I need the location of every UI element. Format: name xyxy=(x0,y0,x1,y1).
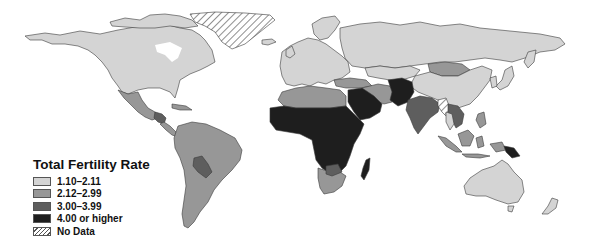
region-india xyxy=(406,96,440,134)
map-legend: Total Fertility Rate 1.10–2.11 2.12–2.99… xyxy=(33,157,150,238)
region-north-africa xyxy=(278,86,346,108)
region-europe xyxy=(280,38,350,86)
region-turkey xyxy=(334,78,372,88)
region-central-asia xyxy=(365,66,420,80)
region-korea xyxy=(490,76,497,88)
region-new-zealand xyxy=(542,198,558,214)
legend-item: 3.00–3.99 xyxy=(33,200,150,213)
legend-label: 3.00–3.99 xyxy=(57,201,102,212)
region-new-guinea-west xyxy=(490,142,506,152)
region-tasmania xyxy=(508,206,514,212)
region-scandinavia xyxy=(312,16,340,40)
region-north-america xyxy=(25,24,215,98)
legend-label: 1.10–2.11 xyxy=(57,176,101,187)
legend-label: 4.00 or higher xyxy=(57,213,123,224)
region-papua-new-guinea xyxy=(504,146,520,158)
region-philippines xyxy=(476,112,486,128)
legend-swatch-darkest xyxy=(33,214,51,223)
legend-item: 1.10–2.11 xyxy=(33,175,150,188)
region-arctic-islands xyxy=(110,14,198,28)
legend-swatch-dark xyxy=(33,202,51,211)
region-borneo xyxy=(458,130,474,146)
region-japan xyxy=(496,66,514,90)
region-sulawesi xyxy=(476,136,484,148)
legend-swatch-light xyxy=(33,177,51,186)
legend-title: Total Fertility Rate xyxy=(33,157,150,172)
region-caribbean xyxy=(172,104,192,110)
legend-item: 4.00 or higher xyxy=(33,213,150,226)
legend-item: 2.12–2.99 xyxy=(33,188,150,201)
region-java xyxy=(462,154,490,158)
legend-swatch-no-data xyxy=(33,227,51,236)
legend-item: No Data xyxy=(33,225,150,238)
region-sumatra xyxy=(438,136,462,152)
legend-swatch-medium xyxy=(33,189,51,198)
region-mexico xyxy=(118,90,158,120)
legend-label: 2.12–2.99 xyxy=(57,188,102,199)
region-iceland xyxy=(262,39,276,45)
region-sub-saharan-africa xyxy=(270,106,364,174)
region-madagascar xyxy=(361,158,370,180)
region-australia xyxy=(464,160,524,204)
legend-label: No Data xyxy=(57,226,95,237)
